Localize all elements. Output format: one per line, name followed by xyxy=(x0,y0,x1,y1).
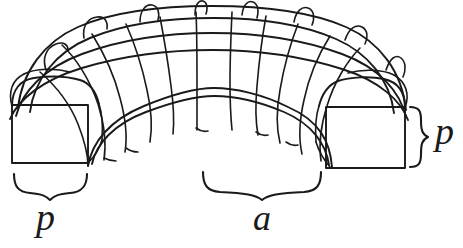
rib-top-loops xyxy=(44,1,405,77)
rib-line-8 xyxy=(256,16,266,135)
brace-bottom-center xyxy=(203,172,321,200)
soffit-tick-5 xyxy=(286,142,298,145)
rib-line-1 xyxy=(40,72,88,166)
arch-soffit-lower-arc xyxy=(92,96,329,165)
left-end-shoulder xyxy=(12,77,99,106)
soffit-tick-marks xyxy=(104,128,298,161)
soffit-tick-3 xyxy=(196,128,208,131)
arch-figure: .ln { fill: none; stroke: #1a1a1a; strok… xyxy=(0,0,463,248)
arch-body xyxy=(10,1,408,168)
arch-soffit-upper-arc xyxy=(10,50,408,120)
right-end-face xyxy=(326,107,405,168)
rib-line-4 xyxy=(126,24,151,142)
arch-diagram-svg: .ln { fill: none; stroke: #1a1a1a; strok… xyxy=(0,0,463,248)
brace-right-side xyxy=(410,107,428,167)
left-end-face xyxy=(12,105,88,163)
dimension-label-p-right: p xyxy=(435,112,454,150)
rib-loop-3 xyxy=(140,5,159,22)
dimension-label-p-bottom: p xyxy=(36,198,55,236)
rib-loop-5 xyxy=(242,2,258,18)
arch-band-lower-arc xyxy=(88,88,332,167)
soffit-tick-2 xyxy=(126,148,138,152)
rib-line-6 xyxy=(196,12,197,130)
arch-outer-back-arc xyxy=(18,6,406,110)
rib-line-9 xyxy=(277,24,298,143)
rib-line-7 xyxy=(230,12,232,130)
soffit-tick-1 xyxy=(104,158,116,161)
dimension-label-a-bottom: a xyxy=(253,200,271,236)
